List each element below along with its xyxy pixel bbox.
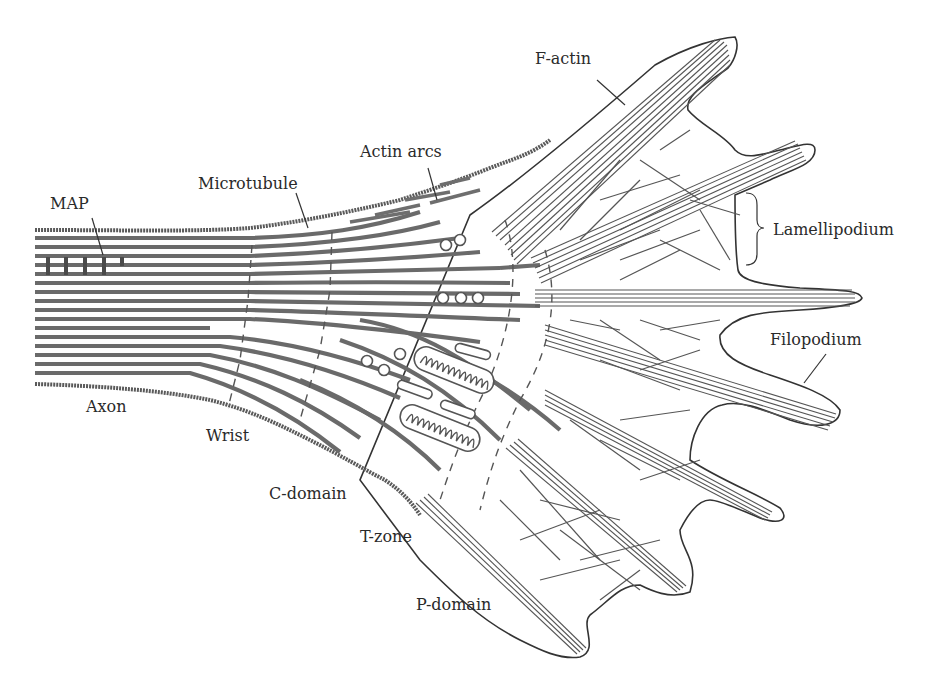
label-wrist: Wrist: [206, 428, 249, 444]
label-actin-arcs: Actin arcs: [360, 144, 442, 160]
label-p-domain: P-domain: [416, 597, 491, 613]
label-microtubule: Microtubule: [198, 176, 298, 192]
label-lamellipodium: Lamellipodium: [773, 222, 894, 238]
label-filopodium: Filopodium: [770, 332, 862, 348]
label-map: MAP: [50, 196, 89, 212]
label-t-zone: T-zone: [360, 529, 412, 545]
label-f-actin: F-actin: [535, 51, 591, 67]
label-c-domain: C-domain: [269, 486, 347, 502]
wrist-boundary: [228, 245, 252, 408]
label-axon: Axon: [86, 399, 127, 415]
